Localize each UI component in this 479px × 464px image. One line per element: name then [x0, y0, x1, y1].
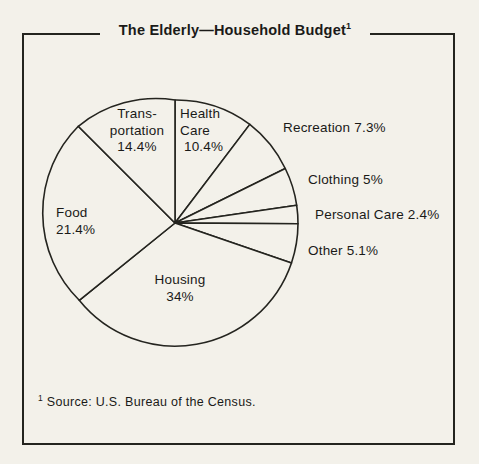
pie-label-housing: Housing 34%	[140, 272, 220, 305]
footnote-text: Source: U.S. Bureau of the Census.	[43, 395, 256, 409]
pie-label-other: Other 5.1%	[308, 243, 378, 260]
pie-label-health-care: Health Care 10.4%	[180, 106, 242, 156]
pie-label-food: Food 21.4%	[56, 205, 130, 238]
pie-label-recreation: Recreation 7.3%	[283, 120, 386, 137]
pie-label-personal-care: Personal Care 2.4%	[315, 207, 439, 224]
pie-label-transportation: Trans- portation 14.4%	[98, 106, 176, 156]
chart-footnote: 1 Source: U.S. Bureau of the Census.	[38, 393, 256, 409]
pie-label-clothing: Clothing 5%	[308, 172, 383, 189]
chart-figure: The Elderly—Household Budget1 Trans- por…	[0, 0, 479, 464]
